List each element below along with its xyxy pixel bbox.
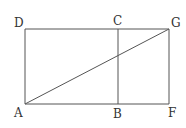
label-c: C xyxy=(113,14,122,28)
label-d: D xyxy=(14,16,24,30)
geometry-diagram: D C G A B F xyxy=(0,0,186,128)
label-g: G xyxy=(171,16,181,30)
label-a: A xyxy=(13,106,23,120)
label-f: F xyxy=(168,106,176,120)
segment-ag xyxy=(25,29,169,104)
label-b: B xyxy=(113,107,122,121)
